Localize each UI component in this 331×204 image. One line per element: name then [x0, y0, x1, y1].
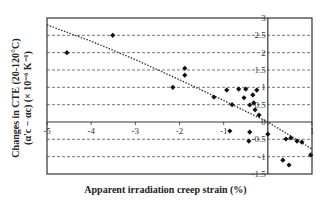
scatter-chart: -5-4-3-2-1132.521.510.50-0.5-1-1.5 — [0, 0, 331, 204]
data-point-diamond — [110, 33, 115, 38]
data-point-diamond — [236, 86, 241, 91]
data-point-diamond — [286, 162, 291, 167]
data-point-diamond — [241, 95, 246, 100]
x-tick-label: -3 — [132, 126, 140, 136]
x-tick-label: 1 — [310, 126, 315, 136]
gridlines — [47, 35, 312, 156]
y-tick-label: -1.5 — [252, 169, 267, 179]
y-tick-label: 2 — [261, 48, 266, 58]
y-tick-label: 1.5 — [255, 65, 267, 75]
x-tick-label: -1 — [220, 126, 228, 136]
data-point-diamond — [211, 94, 216, 99]
y-tick-label: 0 — [261, 117, 266, 127]
plot-frame — [47, 18, 312, 174]
y-tick-label: 2.5 — [255, 30, 267, 40]
data-point-diamond — [280, 158, 285, 163]
axes — [47, 18, 312, 174]
data-point-diamond — [182, 73, 187, 78]
y-tick-label: 1 — [261, 82, 266, 92]
y-tick-label: -1 — [258, 152, 266, 162]
data-point-diamond — [229, 102, 234, 107]
y-tick-label: 3 — [261, 13, 266, 23]
data-point-diamond — [224, 88, 229, 93]
y-tick-label: 0.5 — [255, 100, 267, 110]
data-point-diamond — [283, 136, 288, 141]
data-point-diamond — [64, 50, 69, 55]
y-axis-label-line2: (α'c − αc) (× 10⁻⁶ K⁻¹) — [22, 38, 34, 157]
data-point-diamond — [250, 92, 255, 97]
y-axis-label-line1: Changes in CTE (20-120°C) — [10, 38, 22, 157]
y-axis-label: Changes in CTE (20-120°C) (α'c − αc) (× … — [2, 18, 42, 178]
data-point-diamond — [227, 128, 232, 133]
data-point-diamond — [288, 135, 293, 140]
data-point-diamond — [265, 132, 270, 137]
y-tick-label: -0.5 — [252, 134, 267, 144]
data-point-diamond — [170, 85, 175, 90]
x-tick-label: -2 — [176, 126, 184, 136]
x-tick-label: -5 — [43, 126, 51, 136]
x-axis-label: Apparent irradiation creep strain (%) — [0, 184, 331, 195]
x-tick-label: -4 — [87, 126, 95, 136]
data-point-diamond — [254, 88, 259, 93]
